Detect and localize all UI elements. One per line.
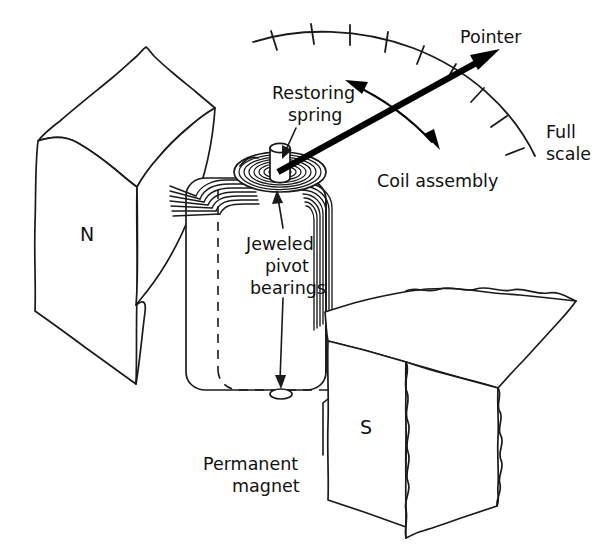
full-scale-label-line1: Full <box>546 122 576 142</box>
scale-tick-1 <box>311 24 314 44</box>
scale-tick-7 <box>491 116 507 127</box>
galvanometer-diagram: N <box>0 0 615 550</box>
south-magnet-right-face <box>406 362 499 538</box>
figure-canvas: N <box>0 0 615 550</box>
jeweled-pivot-label-line3: bearings <box>250 278 326 298</box>
restoring-spring-label-line2: spring <box>288 105 342 125</box>
scale-tick-4 <box>417 46 424 64</box>
permanent-magnet-label-line2: magnet <box>232 476 300 496</box>
scale-tick-6 <box>471 88 484 102</box>
north-pole-letter: N <box>80 223 94 245</box>
north-magnet-front-face <box>35 137 138 384</box>
jeweled-pivot-label-line2: pivot <box>265 256 309 276</box>
south-pole-letter: S <box>360 416 372 438</box>
pointer-label: Pointer <box>460 27 522 47</box>
permanent-magnet-label-line1: Permanent <box>203 454 298 474</box>
south-pole-magnet: S <box>325 288 576 538</box>
lower-bearing-ellipse <box>270 389 292 399</box>
scale-tick-3 <box>385 32 388 52</box>
restoring-spring-label-line1: Restoring <box>272 83 355 103</box>
lower-pivot-bearing <box>270 389 292 399</box>
full-scale-label-line2: scale <box>546 144 591 164</box>
jeweled-pivot-label-line1: Jeweled <box>245 234 314 254</box>
scale-tick-8 <box>506 148 524 155</box>
swing-arrowhead-down-right <box>424 129 440 150</box>
scale-tick-0 <box>271 31 277 50</box>
coil-assembly-label: Coil assembly <box>377 171 498 191</box>
